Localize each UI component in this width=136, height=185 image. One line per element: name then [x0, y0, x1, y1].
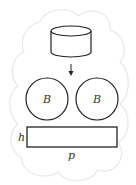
cylinder-shape	[51, 26, 91, 57]
down-arrow-icon	[69, 64, 74, 76]
circle-left-label: B	[42, 93, 51, 106]
diagram-canvas: B B h p	[0, 0, 136, 185]
circle-right-label: B	[92, 93, 101, 106]
rect-height-label: h	[18, 131, 25, 144]
rectangle-shape	[27, 127, 117, 147]
rect-width-label: p	[68, 149, 75, 162]
